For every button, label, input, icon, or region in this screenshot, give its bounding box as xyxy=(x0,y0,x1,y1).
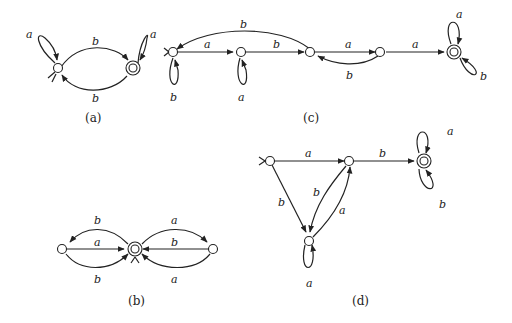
transition-label: a xyxy=(345,38,352,51)
transition-edge xyxy=(313,167,350,237)
transition-label: a xyxy=(171,214,178,227)
transition-edge xyxy=(138,35,148,63)
transition-edge xyxy=(448,22,459,44)
transition-label: a xyxy=(447,125,454,138)
transition-edge xyxy=(62,75,127,90)
state-node xyxy=(58,245,67,254)
transition-label: a xyxy=(26,28,33,41)
transition-label: b xyxy=(346,69,353,82)
caption: (c) xyxy=(303,111,319,125)
transition-label: b xyxy=(94,214,101,227)
transition-label: b xyxy=(240,18,247,31)
transition-label: a xyxy=(150,28,157,41)
diagram-b: b a b a b a (b) xyxy=(58,214,218,308)
transition-edge xyxy=(177,31,310,49)
state-node xyxy=(209,245,218,254)
transition-label: a xyxy=(456,8,463,21)
transition-label: b xyxy=(439,198,446,211)
transition-edge xyxy=(417,132,428,153)
transition-label: b xyxy=(313,186,320,199)
transition-edge xyxy=(460,58,476,75)
transition-label: b xyxy=(278,196,285,209)
transition-edge xyxy=(259,157,265,161)
transition-edge xyxy=(142,254,210,268)
state-node xyxy=(169,48,178,57)
transition-label: b xyxy=(379,147,386,160)
state-node xyxy=(131,245,139,253)
transition-label: b xyxy=(94,273,101,286)
state-node xyxy=(450,48,458,56)
transition-edge xyxy=(238,58,247,84)
state-node xyxy=(306,48,315,57)
transition-label: b xyxy=(92,35,99,48)
caption: (b) xyxy=(128,294,145,308)
transition-edge xyxy=(318,56,378,64)
transition-edge xyxy=(52,74,56,82)
transition-label: a xyxy=(339,204,346,217)
diagram-c: b a b a b a b a a b (c) xyxy=(164,8,487,125)
state-start xyxy=(54,64,63,73)
transition-edge xyxy=(419,169,433,189)
transition-label: b xyxy=(170,91,177,104)
transition-label: b xyxy=(273,38,280,51)
transition-label: a xyxy=(306,277,313,290)
transition-label: a xyxy=(238,91,245,104)
state-node xyxy=(266,157,275,166)
transition-edge xyxy=(131,257,135,263)
state-node xyxy=(345,157,354,166)
diagram-a: a a b b (a) xyxy=(26,28,157,125)
caption: (d) xyxy=(352,294,369,308)
transition-label: a xyxy=(412,38,419,51)
transition-label: a xyxy=(305,147,312,160)
transition-label: b xyxy=(480,70,487,83)
transition-label: a xyxy=(94,236,101,249)
caption: (a) xyxy=(85,111,102,125)
state-node xyxy=(376,48,385,57)
transition-edge xyxy=(135,257,139,263)
state-node xyxy=(305,237,314,246)
diagram-d: a b b b a a a b (d) xyxy=(259,125,454,308)
state-node xyxy=(129,64,137,72)
transition-edge xyxy=(303,245,313,268)
transition-label: a xyxy=(204,38,211,51)
transition-label: b xyxy=(92,92,99,105)
automata-figure: a a b b (a) b a b a b a b a a b (c) xyxy=(0,0,512,323)
transition-edge xyxy=(38,36,57,63)
state-node xyxy=(420,157,428,165)
transition-edge xyxy=(170,58,178,84)
transition-label: b xyxy=(171,236,178,249)
transition-label: a xyxy=(171,273,178,286)
transition-edge xyxy=(66,254,128,268)
transition-edge xyxy=(61,48,128,67)
transition-edge xyxy=(259,161,265,165)
state-node xyxy=(237,48,246,57)
